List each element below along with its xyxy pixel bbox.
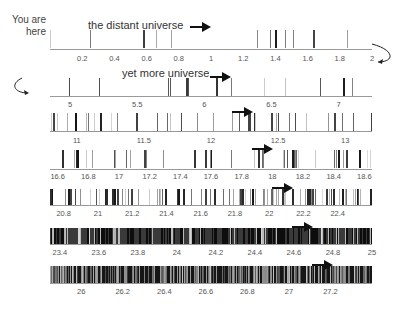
wrap-arrow-right-icon	[0, 0, 409, 313]
